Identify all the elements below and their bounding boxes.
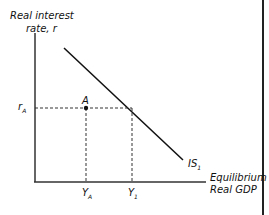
is1-label: IS1 [188,158,201,174]
r-a-tick: rA [18,101,26,117]
y-axis-label: Real interest [10,10,74,22]
x-axis-label: Equilibrium [210,172,267,184]
y-axis-label-2: rate, r [26,23,57,35]
point-a-label: A [82,95,89,107]
y-1-tick: Y1 [128,187,138,203]
y-a-tick: YA [82,187,92,203]
x-axis-label-2: Real GDP [210,184,257,196]
